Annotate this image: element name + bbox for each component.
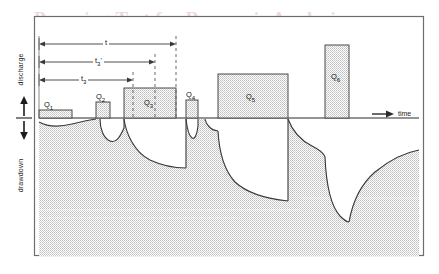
discharge-bar bbox=[39, 110, 72, 118]
drawdown-axis-label: drawdown bbox=[17, 146, 24, 206]
dimension-label-t: t bbox=[103, 38, 109, 47]
bar-label-q6: Q6 bbox=[331, 72, 340, 83]
bar-label-q4-sub: 4 bbox=[192, 95, 195, 101]
drawdown-direction-arrow bbox=[20, 121, 28, 140]
figure-page: Pumping Test for Reservoir Analysis drai… bbox=[0, 0, 439, 274]
time-axis-label: time bbox=[398, 110, 411, 117]
bar-label-q2-sub: 2 bbox=[102, 97, 105, 103]
bar-label-q4: Q4 bbox=[186, 90, 195, 101]
bar-label-q3-sub: 3 bbox=[150, 103, 153, 109]
bar-label-q5-sub: 5 bbox=[252, 97, 255, 103]
dimension-label-t3-prime: t3' bbox=[93, 56, 104, 67]
bar-label-q1: Q1 bbox=[44, 100, 53, 111]
bar-label-q3: Q3 bbox=[144, 98, 153, 109]
discharge-direction-arrow bbox=[20, 96, 28, 116]
bar-label-q6-sub: 6 bbox=[337, 77, 340, 83]
bar-label-q2: Q2 bbox=[96, 92, 105, 103]
bar-label-q5: Q5 bbox=[246, 92, 255, 103]
dimension-label-t3-prime-mark: ' bbox=[100, 57, 101, 64]
discharge-axis-label: discharge bbox=[17, 42, 24, 98]
dimension-label-t3-sub: 3 bbox=[83, 79, 86, 85]
discharge-bar bbox=[186, 100, 198, 118]
dimension-label-t-text: t bbox=[105, 38, 107, 47]
discharge-bar bbox=[96, 102, 110, 118]
dimension-label-t3: t3 bbox=[79, 74, 88, 85]
bar-label-q1-sub: 1 bbox=[50, 105, 53, 111]
step-drawdown-diagram bbox=[0, 0, 439, 274]
